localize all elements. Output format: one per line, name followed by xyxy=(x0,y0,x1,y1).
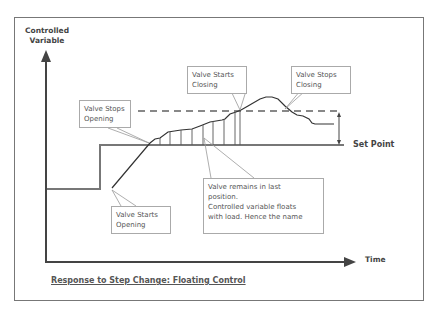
callout-text: Opening xyxy=(116,220,166,230)
y-axis-label: Controlled Variable xyxy=(22,26,72,46)
callout-text: Valve Starts xyxy=(116,210,166,220)
callout-valve-starts-closing: Valve Starts Closing xyxy=(187,66,247,94)
set-point-label: Set Point xyxy=(353,140,394,150)
callout-text: position. xyxy=(208,192,319,202)
callout-text: Controlled variable floats xyxy=(208,202,319,212)
offset-arrow-up-icon xyxy=(337,112,341,117)
callout-text: with load. Hence the name xyxy=(208,212,319,222)
callout-text: Valve Stops xyxy=(296,70,346,80)
callout-valve-stops-closing: Valve Stops Closing xyxy=(291,66,351,94)
y-axis-label-line2: Variable xyxy=(22,36,72,46)
callout-valve-remains: Valve remains in last position. Controll… xyxy=(203,178,324,234)
callout-text: Valve remains in last xyxy=(208,182,319,192)
callout-text: Valve Stops xyxy=(84,104,126,114)
floating-control-diagram xyxy=(0,0,438,315)
x-axis-label: Time xyxy=(365,255,386,265)
diagram-title: Response to Step Change: Floating Contro… xyxy=(51,276,246,285)
callout-valve-starts-opening: Valve Starts Opening xyxy=(111,206,171,234)
callout-text: Opening xyxy=(84,114,126,124)
x-axis-arrow-icon xyxy=(344,257,356,267)
callout-text: Closing xyxy=(192,80,242,90)
callout-text: Closing xyxy=(296,80,346,90)
y-axis-arrow-icon xyxy=(41,50,51,62)
y-axis-label-line1: Controlled xyxy=(22,26,72,36)
callout-text: Valve Starts xyxy=(192,70,242,80)
callout-valve-stops-opening: Valve Stops Opening xyxy=(79,100,131,128)
